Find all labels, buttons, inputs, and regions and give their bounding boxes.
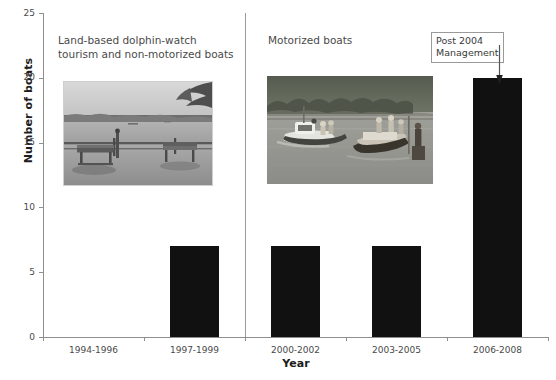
bar-chart-figure: Number of boats Year 0510152025 1994-199… (0, 0, 556, 380)
x-tick-mark (548, 337, 549, 341)
section-divider (245, 13, 246, 337)
y-tick-mark (39, 78, 43, 79)
x-tick-mark (346, 337, 347, 341)
bar (372, 246, 420, 337)
y-tick-label: 25 (9, 9, 35, 18)
y-tick-label: 5 (9, 268, 35, 277)
land-based-tourism-photo (63, 81, 213, 186)
x-tick-mark (447, 337, 448, 341)
x-tick-label: 2000-2002 (245, 346, 346, 355)
x-axis-title: Year (40, 357, 552, 370)
y-tick-label: 20 (9, 73, 35, 82)
bar (271, 246, 319, 337)
down-arrow-icon (495, 45, 504, 85)
x-tick-label: 2003-2005 (346, 346, 447, 355)
x-tick-mark (43, 337, 44, 341)
y-axis-line (43, 13, 44, 337)
x-tick-label: 2006-2008 (447, 346, 548, 355)
y-tick-mark (39, 143, 43, 144)
x-tick-label: 1994-1996 (43, 346, 144, 355)
x-axis-line (43, 337, 548, 338)
y-tick-mark (39, 272, 43, 273)
y-tick-mark (39, 207, 43, 208)
bar (170, 246, 218, 337)
y-tick-label: 0 (9, 333, 35, 342)
y-tick-mark (39, 13, 43, 14)
bar (473, 78, 521, 337)
y-tick-label: 15 (9, 138, 35, 147)
x-tick-mark (245, 337, 246, 341)
y-tick-label: 10 (9, 203, 35, 212)
y-axis-title: Number of boats (22, 31, 35, 191)
motorized-boats-photo (267, 76, 433, 184)
x-tick-label: 1997-1999 (144, 346, 245, 355)
right-section-caption: Motorized boats (268, 33, 418, 47)
post-2004-management-callout: Post 2004 Management (431, 32, 504, 63)
x-tick-mark (144, 337, 145, 341)
left-section-caption: Land-based dolphin-watch tourism and non… (58, 33, 238, 61)
